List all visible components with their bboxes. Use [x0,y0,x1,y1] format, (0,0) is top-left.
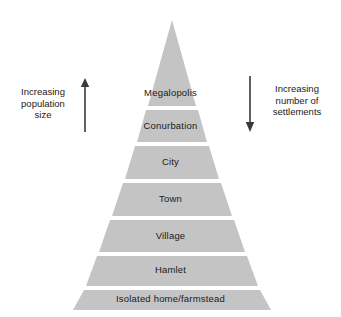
pyramid-tier-label-hamlet: Hamlet [0,265,341,275]
pyramid-tier-label-village: Village [0,231,341,241]
pyramid-tier-label-city: City [0,157,341,167]
pyramid-tier-label-town: Town [0,194,341,204]
arrow-down-icon [243,72,257,134]
pyramid-tier-label-isolated-home-farmstead: Isolated home/farmstead [0,294,341,304]
left-annotation: Increasing population size [6,86,80,121]
settlement-hierarchy-diagram: Megalopolis Conurbation City Town Villag… [0,0,341,317]
left-annotation-line-3: size [6,109,80,121]
right-annotation-line-2: number of [258,95,336,107]
right-annotation: Increasing number of settlements [258,83,336,118]
right-annotation-line-1: Increasing [258,83,336,95]
arrow-up-icon [78,76,92,134]
right-annotation-line-3: settlements [258,106,336,118]
pyramid-tier-label-conurbation: Conurbation [0,121,341,131]
left-annotation-line-1: Increasing [6,86,80,98]
left-annotation-line-2: population [6,98,80,110]
